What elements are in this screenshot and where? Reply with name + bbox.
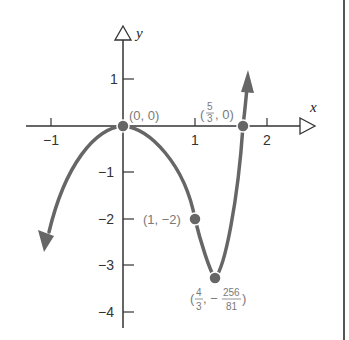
y-axis: 1 −1 −2 −3 −4 y <box>98 25 143 328</box>
svg-text:3: 3 <box>196 301 202 312</box>
svg-text:(: ( <box>200 107 205 122</box>
svg-text:, 0): , 0) <box>215 107 234 122</box>
y-tick-neg3: −3 <box>98 257 114 273</box>
svg-text:(: ( <box>190 291 195 306</box>
x-axis-arrow-icon <box>300 118 315 134</box>
svg-text:4: 4 <box>196 287 202 298</box>
point-root <box>237 120 249 132</box>
point-min <box>209 272 221 284</box>
key-points <box>117 120 249 284</box>
y-tick-neg2: −2 <box>98 211 114 227</box>
x-tick-2: 2 <box>263 132 271 148</box>
label-min: ( 4 3 , − 256 81 ) <box>190 287 246 312</box>
curve <box>38 70 254 278</box>
label-origin: (0, 0) <box>129 108 159 123</box>
x-tick-neg1: −1 <box>43 132 59 148</box>
x-tick-1: 1 <box>191 132 199 148</box>
x-axis: −1 1 2 x <box>26 99 317 148</box>
point-origin <box>117 120 129 132</box>
svg-text:81: 81 <box>226 301 238 312</box>
point-one <box>189 213 201 225</box>
label-root: ( 5 3 , 0) <box>200 101 234 124</box>
y-tick-1: 1 <box>110 71 118 87</box>
y-axis-arrow-icon <box>115 26 131 40</box>
svg-text:5: 5 <box>207 101 213 112</box>
label-one: (1, −2) <box>143 212 181 227</box>
x-axis-label: x <box>309 99 317 115</box>
y-tick-neg4: −4 <box>98 304 114 320</box>
chart: −1 1 2 x 1 −1 −2 −3 −4 y (0, 0) ( 5 <box>0 0 349 340</box>
y-axis-label: y <box>134 25 143 41</box>
svg-text:256: 256 <box>223 287 240 298</box>
y-tick-neg1: −1 <box>98 164 114 180</box>
svg-text:, −: , − <box>203 291 218 306</box>
svg-text:3: 3 <box>207 113 213 124</box>
curve-left-arrow-icon <box>38 230 54 252</box>
svg-text:): ) <box>242 291 246 306</box>
curve-right-arrow-icon <box>241 70 254 93</box>
